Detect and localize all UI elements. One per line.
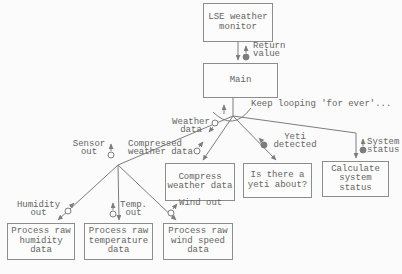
node-calculate-system-status: Calculate system status xyxy=(322,161,389,197)
compressed-weather-data-label: Compressed weather data xyxy=(128,141,193,156)
compressed-weather-data-couple-icon xyxy=(194,142,203,154)
node-label-line: data xyxy=(108,246,130,256)
return-value-label: Return value xyxy=(253,43,285,58)
return-value-couple-icon xyxy=(243,46,249,60)
node-label-line: yeti about? xyxy=(248,181,307,191)
temp-out-couple-icon xyxy=(110,203,116,217)
system-status-label: System status xyxy=(367,139,399,154)
node-label-line: data xyxy=(187,246,209,256)
wind-out-label: Wind out xyxy=(179,200,222,208)
node-main: Main xyxy=(203,63,278,98)
node-process-raw-temperature-data: Process raw temperature data xyxy=(84,223,153,260)
weather-data-label: Weather data xyxy=(170,119,212,134)
node-label-line: weather data xyxy=(168,182,233,192)
yeti-detected-couple-icon xyxy=(259,138,267,148)
structure-chart: LSE weather monitor Main Compress weathe… xyxy=(0,0,402,274)
node-label-line: data xyxy=(30,246,52,256)
node-label-line: Main xyxy=(230,76,252,86)
loop-arc xyxy=(213,108,251,121)
node-compress-weather-data: Compress weather data xyxy=(165,163,235,201)
wind-out-couple-icon xyxy=(168,204,177,216)
node-lse-weather-monitor: LSE weather monitor xyxy=(203,3,273,42)
keep-looping-annotation: Keep looping 'for ever'... xyxy=(251,101,391,109)
node-process-raw-wind-speed-data: Process raw wind speed data xyxy=(163,223,233,260)
system-status-couple-icon xyxy=(360,139,366,153)
node-process-raw-humidity-data: Process raw humidity data xyxy=(7,223,75,260)
yeti-detected-label: Yeti detected xyxy=(272,134,318,149)
humidity-out-label: Humidity out xyxy=(15,202,62,217)
node-is-there-a-yeti-about: Is there a yeti about? xyxy=(243,163,312,198)
sensor-out-couple-icon xyxy=(108,144,114,158)
node-label-line: status xyxy=(339,184,371,194)
node-label-line: monitor xyxy=(219,23,257,33)
humidity-out-couple-icon xyxy=(65,203,74,214)
sensor-out-label: Sensor out xyxy=(72,141,106,156)
temp-out-label: Temp. out xyxy=(118,202,149,217)
edge-main-to-yeti xyxy=(233,116,276,160)
